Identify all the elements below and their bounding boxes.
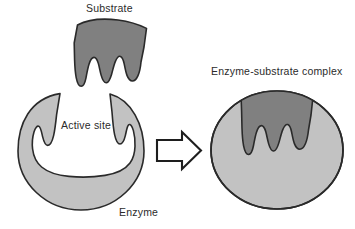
diagram-canvas xyxy=(0,0,355,229)
enzyme-label: Enzyme xyxy=(119,207,158,218)
reaction-arrow-group xyxy=(157,132,201,169)
complex-substrate-shape xyxy=(241,88,313,154)
enzyme-shape-group xyxy=(18,94,144,210)
enzyme-shape xyxy=(18,94,144,210)
reaction-arrow-icon xyxy=(157,132,201,169)
active-site-label: Active site xyxy=(61,120,111,131)
substrate-shape xyxy=(74,19,146,86)
enzyme-substrate-complex-label: Enzyme-substrate complex xyxy=(211,66,342,77)
substrate-label: Substrate xyxy=(86,3,133,14)
substrate-shape-group xyxy=(74,19,146,86)
complex-group xyxy=(211,88,343,209)
enzyme-substrate-diagram: Substrate Enzyme-substrate complex Activ… xyxy=(0,0,355,229)
